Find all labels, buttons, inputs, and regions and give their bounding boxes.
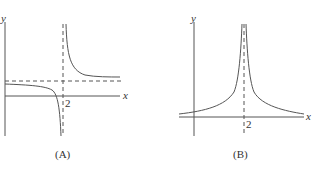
graph-a-caption: (A) xyxy=(55,148,70,160)
graph-a-left-branch xyxy=(5,84,61,136)
graph-b-tick-2: 2 xyxy=(246,118,252,130)
graph-b-left-branch xyxy=(179,24,242,114)
graph-b-y-label: y xyxy=(191,12,196,24)
graph-a-tick-2: 2 xyxy=(65,97,71,109)
graph-b xyxy=(179,22,304,136)
graph-b-right-branch xyxy=(246,24,304,114)
graph-a-x-label: x xyxy=(123,89,128,101)
graph-a xyxy=(5,22,122,136)
graph-b-x-label: x xyxy=(306,110,311,122)
graphs-canvas xyxy=(0,0,323,171)
graph-a-y-label: y xyxy=(1,12,6,24)
graph-b-caption: (B) xyxy=(233,148,248,160)
graph-a-right-branch xyxy=(66,24,120,77)
